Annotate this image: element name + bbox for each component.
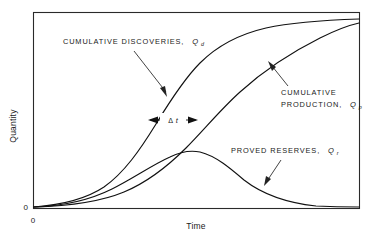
label-cumulative-discoveries-subscript: d bbox=[201, 41, 205, 47]
label-cumulative-production-line2: PRODUCTION, Q p bbox=[281, 100, 362, 110]
label-cumulative-production-text: PRODUCTION, bbox=[281, 100, 342, 109]
label-cumulative-production-subscript: p bbox=[358, 104, 362, 110]
label-proved-reserves-text: PROVED RESERVES, bbox=[231, 146, 320, 155]
label-proved-reserves-symbol: Q bbox=[328, 146, 334, 155]
label-delta-t: Δ t bbox=[168, 116, 179, 125]
leader-line-discoveries bbox=[134, 51, 166, 92]
x-axis-label: Time bbox=[186, 221, 205, 231]
curve-cumulative-production bbox=[34, 23, 359, 207]
curve-proved-reserves bbox=[34, 151, 359, 207]
label-cumulative-production-line1: CUMULATIVE bbox=[281, 88, 337, 97]
label-cumulative-discoveries-symbol: Q bbox=[192, 37, 198, 46]
y-origin-tick-label: 0 bbox=[24, 203, 29, 212]
leader-arrowhead-reserves bbox=[264, 176, 271, 186]
delta-t-arrowhead-right bbox=[188, 117, 198, 124]
delta-t-arrowhead-left bbox=[148, 117, 158, 124]
label-cumulative-production-symbol: Q bbox=[350, 100, 356, 109]
label-proved-reserves-subscript: r bbox=[337, 150, 339, 156]
leader-line-production bbox=[272, 66, 288, 86]
leader-arrowhead-discoveries bbox=[160, 86, 167, 97]
label-proved-reserves: PROVED RESERVES, Q r bbox=[231, 146, 339, 156]
label-cumulative-discoveries: CUMULATIVE DISCOVERIES, Q d bbox=[63, 37, 205, 47]
hubbert-resource-diagram: Quantity Time 0 0 CUMULATIVE DISCOVERIES… bbox=[0, 0, 378, 245]
x-origin-tick-label: 0 bbox=[31, 216, 36, 225]
curve-cumulative-discoveries bbox=[34, 19, 359, 207]
label-delta-t-symbol: Δ bbox=[168, 116, 173, 125]
y-axis-label: Quantity bbox=[8, 109, 18, 143]
leader-line-reserves bbox=[267, 160, 281, 181]
label-cumulative-discoveries-text: CUMULATIVE DISCOVERIES, bbox=[63, 37, 184, 46]
